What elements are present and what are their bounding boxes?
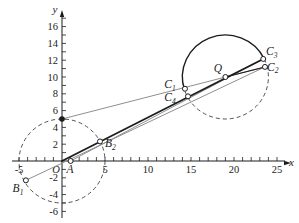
- y-axis-label: y: [52, 3, 58, 15]
- point-C4-marker: [185, 94, 190, 99]
- x-tick-label: 25: [272, 164, 283, 175]
- x-tick-label: 10: [143, 164, 154, 175]
- diagram-canvas: -5510152025161412108642-2-4-6xyOAB1B2QC1…: [0, 0, 299, 223]
- y-tick-label: 16: [48, 21, 59, 32]
- background: [0, 0, 299, 223]
- point-B1-marker: [23, 178, 28, 183]
- y-tick-label: -4: [49, 189, 58, 200]
- point-C1-marker: [182, 86, 187, 91]
- y-tick-label: 10: [48, 72, 59, 83]
- x-tick-label: 20: [229, 164, 240, 175]
- x-tick-label: 15: [186, 164, 197, 175]
- y-tick-label: 6: [53, 105, 58, 116]
- x-axis-label: x: [288, 156, 294, 168]
- point-B2-marker: [98, 139, 103, 144]
- y-tick-label: 2: [53, 139, 58, 150]
- point-C3-marker: [261, 56, 266, 61]
- y-tick-label: 4: [53, 122, 59, 133]
- point-Q-label: Q: [214, 62, 223, 74]
- y-tick-label: 12: [48, 55, 59, 66]
- y-tick-label: -6: [49, 206, 58, 217]
- point-A-label: A: [65, 163, 74, 175]
- y-tick-label: 8: [53, 88, 58, 99]
- geometry-diagram: -5510152025161412108642-2-4-6xyOAB1B2QC1…: [0, 0, 299, 223]
- x-tick-label: 5: [102, 164, 107, 175]
- point-Q-marker: [223, 75, 228, 80]
- y-tick-label: 14: [48, 38, 59, 49]
- point-P-filled-dot: [59, 116, 65, 122]
